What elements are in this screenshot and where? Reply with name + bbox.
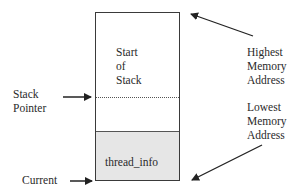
start-of-stack-label: Start of Stack <box>116 45 142 87</box>
thread-info-label: thread_info <box>105 155 158 169</box>
lowest-line-3: Address <box>247 128 287 142</box>
lowest-line-1: Lowest <box>247 100 287 114</box>
start-line-2: of <box>116 59 142 73</box>
highest-line-3: Address <box>247 73 287 87</box>
stack-pointer-line-1: Stack <box>13 87 46 101</box>
thread-info-region: thread_info <box>96 131 179 180</box>
kernel-stack-box: Start of Stack thread_info <box>95 12 180 181</box>
stack-pointer-line-2: Pointer <box>13 101 46 115</box>
lowest-address-arrow <box>192 145 262 180</box>
start-line-3: Stack <box>116 73 142 87</box>
stack-pointer-label: Stack Pointer <box>13 87 46 115</box>
highest-memory-address-label: Highest Memory Address <box>247 45 287 87</box>
highest-address-arrow <box>191 14 253 36</box>
stack-pointer-line <box>96 97 179 98</box>
highest-line-2: Memory <box>247 59 287 73</box>
highest-line-1: Highest <box>247 45 287 59</box>
lowest-line-2: Memory <box>247 114 287 128</box>
current-label: Current <box>22 173 57 187</box>
lowest-memory-address-label: Lowest Memory Address <box>247 100 287 142</box>
start-line-1: Start <box>116 45 142 59</box>
